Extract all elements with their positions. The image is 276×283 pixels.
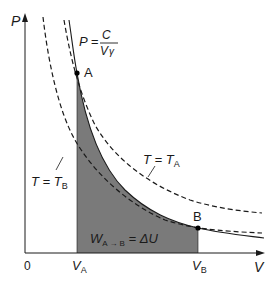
work-area — [77, 73, 198, 253]
x-axis-arrow-icon — [256, 250, 265, 256]
x-axis-label: V — [254, 259, 265, 275]
y-axis-label: P — [11, 13, 21, 29]
vb-label: VB — [192, 258, 207, 275]
work-label: WA → B = ΔU — [90, 231, 159, 248]
y-axis-arrow-icon — [22, 13, 28, 22]
origin-label: 0 — [24, 259, 31, 273]
ta-leader — [148, 166, 155, 177]
point-b-label: B — [193, 209, 202, 224]
isotherm-ta-label: T = TA — [143, 152, 180, 169]
svg-text:P =: P = — [79, 34, 99, 49]
svg-text:Vγ: Vγ — [100, 44, 115, 58]
tb-leader — [56, 157, 63, 170]
va-label: VA — [72, 258, 87, 275]
point-a-label: A — [84, 65, 93, 80]
svg-text:C: C — [102, 28, 111, 42]
isotherm-tb — [43, 17, 262, 233]
isotherm-tb-label: T = TB — [31, 174, 68, 191]
point-b — [195, 225, 200, 230]
adiabat-equation: P = C Vγ — [79, 28, 118, 58]
point-a — [74, 70, 79, 75]
pv-diagram: P V 0 VA VB A B P = C Vγ T = TA T = TB W… — [0, 0, 276, 283]
